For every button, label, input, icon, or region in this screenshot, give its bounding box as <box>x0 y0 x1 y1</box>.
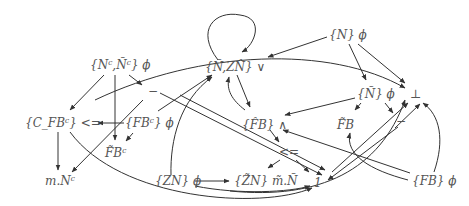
node-fbc-tilde: F̃Bᶜ <box>105 146 126 160</box>
node-minus-2: − <box>396 114 406 128</box>
edge <box>349 44 366 80</box>
edge <box>296 160 309 172</box>
node-one: 1 <box>314 176 322 190</box>
edge <box>385 103 393 113</box>
edge <box>126 133 133 141</box>
edge <box>171 77 212 175</box>
node-n-phi: {N} ϕ <box>329 28 367 42</box>
node-leq: <= <box>279 145 299 159</box>
node-ntilde-phi: {Ñ} ϕ <box>357 87 395 101</box>
edge <box>268 37 327 57</box>
edge <box>160 93 322 175</box>
edge-self-loop <box>208 14 256 60</box>
node-fbc-phi: {FBᶜ} ϕ <box>125 116 174 130</box>
edge <box>285 98 355 115</box>
node-bottom: ⊥ <box>410 87 421 101</box>
node-m-nc: m.Nᶜ <box>45 174 75 188</box>
edge <box>237 75 250 107</box>
node-nc-tildenc-phi: {Nᶜ,Ñᶜ} ϕ <box>90 58 151 72</box>
node-fbtilde: F̃B <box>337 118 354 132</box>
node-minus-1: − <box>148 84 158 98</box>
diagram-canvas: {Ñ,ZN̂} ∨ {N} ϕ {Nᶜ,Ñᶜ} ϕ − {Ñ} ϕ ⊥ {C_F… <box>0 0 469 206</box>
edge <box>349 133 408 180</box>
edge <box>180 95 325 170</box>
node-fb-phi: {FB} ϕ <box>412 174 456 188</box>
edge <box>70 75 104 110</box>
node-n-znhat-or: {Ñ,ZN̂} ∨ <box>205 60 265 74</box>
edge <box>423 103 440 172</box>
edge <box>72 100 143 172</box>
node-fbhat-and: {F̂B} ∧ <box>242 118 287 132</box>
edge <box>70 132 312 198</box>
node-c-fbc-leq: {C_FBᶜ} <= <box>25 116 101 130</box>
node-zntilde-mn: {Z̃N} m̃.Ñ <box>234 174 298 188</box>
edge <box>268 160 280 168</box>
node-zn-phi: {ZN} ϕ <box>155 174 201 188</box>
edge <box>355 103 361 110</box>
edge <box>228 77 245 110</box>
edge <box>328 127 398 180</box>
